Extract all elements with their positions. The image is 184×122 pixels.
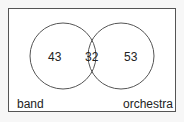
- orchestra-only-count: 53: [124, 51, 137, 63]
- band-label: band: [17, 98, 44, 110]
- orchestra-label: orchestra: [123, 98, 173, 110]
- band-only-count: 43: [48, 51, 61, 63]
- both-count: 32: [85, 51, 98, 63]
